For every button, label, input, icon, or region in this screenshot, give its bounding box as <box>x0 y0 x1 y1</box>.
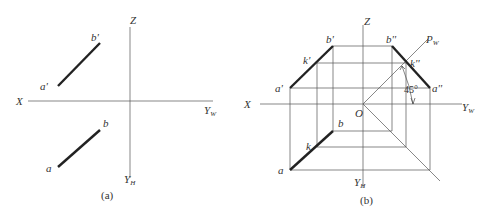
label-a-a: a <box>46 162 52 174</box>
origin-label: O <box>355 107 363 119</box>
label-k-dbl: k'' <box>410 57 420 69</box>
line-a-b <box>58 130 100 167</box>
label-a-b: a <box>278 164 284 176</box>
label-b-prime-a: b' <box>91 31 100 43</box>
yh-label-b: YH <box>354 176 366 190</box>
label-a-prime-b: a' <box>275 82 284 94</box>
z-label-a: Z <box>130 14 137 26</box>
projection-diagram: X Z YW YH a' b' a b (a) <box>0 0 487 216</box>
x-label-b: X <box>243 98 252 110</box>
figure-b: 45° X Z YW YH O PW a' b' k' a b k b'' k'… <box>243 15 475 207</box>
line-a-b-b <box>290 131 333 170</box>
label-a-prime-a: a' <box>40 80 49 92</box>
label-b-b: b <box>338 117 344 129</box>
yw-label-a: YW <box>204 104 217 118</box>
label-b-prime-b: b' <box>326 33 335 45</box>
angle-label: 45° <box>404 84 418 95</box>
z-label-b: Z <box>364 15 371 27</box>
caption-a: (a) <box>101 189 114 202</box>
yw-label-b: YW <box>462 101 475 115</box>
angle-arrow-bottom <box>411 98 415 104</box>
caption-b: (b) <box>360 194 373 207</box>
figure-a: X Z YW YH a' b' a b (a) <box>15 14 217 202</box>
label-a-dbl: a'' <box>432 82 443 94</box>
label-k-prime-b: k' <box>303 54 311 66</box>
line-a-prime-b-prime <box>58 43 100 86</box>
line-a-prime-b-prime-b <box>290 46 333 88</box>
x-label-a: X <box>15 95 24 107</box>
pw-label: PW <box>425 33 440 47</box>
yh-label-a: YH <box>124 173 136 187</box>
label-b-dbl: b'' <box>386 33 397 45</box>
label-b-a: b <box>103 117 109 129</box>
diagonal-45 <box>363 104 440 181</box>
